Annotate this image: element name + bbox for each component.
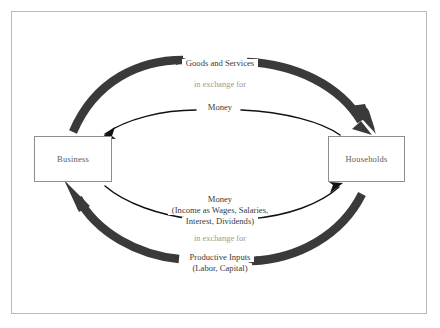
label-in-exchange-for-bottom: in exchange for	[0, 235, 440, 244]
label-in-exchange-for-bottom-text: in exchange for	[190, 235, 250, 244]
node-business[interactable]: Business	[34, 136, 112, 182]
label-productive-inputs-text: Productive Inputs	[186, 253, 255, 262]
node-households[interactable]: Households	[328, 136, 405, 182]
label-labor-capital: (Labor, Capital)	[0, 264, 440, 273]
node-households-label: Households	[345, 154, 387, 164]
label-money-top-text: Money	[204, 103, 236, 112]
label-in-exchange-for-top-text: in exchange for	[190, 81, 250, 90]
label-income-line-1-text: (Income as Wages, Salaries,	[168, 206, 272, 215]
label-money-bottom: Money	[0, 195, 440, 204]
node-business-label: Business	[57, 154, 89, 164]
inner-arrow-money-top	[101, 110, 340, 139]
label-in-exchange-for-top: in exchange for	[0, 81, 440, 90]
label-productive-inputs: Productive Inputs	[0, 253, 440, 262]
label-income-line-2: Interest, Dividends)	[0, 217, 440, 226]
label-income-line-2-text: Interest, Dividends)	[182, 217, 258, 226]
label-money-bottom-text: Money	[204, 195, 236, 204]
label-income-line-1: (Income as Wages, Salaries,	[0, 206, 440, 215]
label-goods-and-services: Goods and Services	[0, 59, 440, 68]
label-labor-capital-text: (Labor, Capital)	[188, 264, 251, 273]
label-goods-and-services-text: Goods and Services	[182, 59, 258, 68]
label-money-top: Money	[0, 103, 440, 112]
diagram-canvas: Business Households Goods and Services i…	[0, 0, 440, 328]
